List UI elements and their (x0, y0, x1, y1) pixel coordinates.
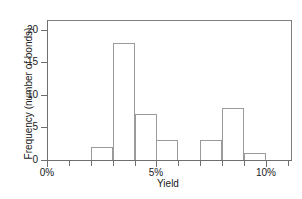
x-tick-mark-minor (244, 161, 245, 166)
x-tick-label: 5% (134, 167, 178, 178)
y-tick-mark (41, 95, 47, 96)
y-tick-label: 20 (0, 25, 38, 35)
x-axis-line (47, 160, 292, 161)
histogram-bar (91, 147, 113, 160)
x-tick-mark-minor (135, 161, 136, 166)
y-tick-label: 15 (0, 57, 38, 67)
x-tick-mark-minor (69, 161, 70, 166)
histogram-figure: Frequency (number of bonds) 05101520 0%5… (0, 0, 302, 199)
x-tick-mark-minor (91, 161, 92, 166)
y-tick-label: 10 (0, 90, 38, 100)
histogram-bar (244, 153, 266, 160)
x-tick-label: 10% (244, 167, 288, 178)
x-tick-label: 0% (25, 167, 69, 178)
x-axis-title: Yield (44, 178, 292, 189)
x-tick-mark-minor (288, 161, 289, 166)
y-tick-mark (41, 30, 47, 31)
plot-area (47, 20, 292, 160)
histogram-bar (135, 114, 157, 160)
histogram-bar (222, 108, 244, 160)
x-tick-mark-minor (222, 161, 223, 166)
histogram-bar (200, 140, 222, 160)
y-tick-mark (41, 127, 47, 128)
histogram-bar (113, 43, 135, 160)
y-tick-label: 0 (0, 155, 38, 165)
histogram-bar (156, 140, 178, 160)
y-tick-label: 5 (0, 122, 38, 132)
x-tick-mark-minor (113, 161, 114, 166)
x-tick-mark-minor (200, 161, 201, 166)
x-tick-mark-minor (178, 161, 179, 166)
y-tick-mark (41, 62, 47, 63)
